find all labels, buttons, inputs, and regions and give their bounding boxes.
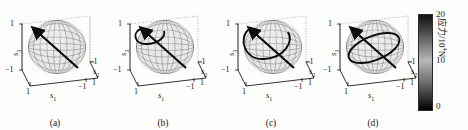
panel-c-plot: 1 −1 1 −1 1 −1 s1 s2 s3 [216, 2, 326, 106]
sphere-wireframe [136, 20, 194, 74]
axis-label-s3: s3 [328, 50, 340, 56]
axis-label-s1: s1 [266, 90, 272, 102]
tick-y-pos: 1 [308, 78, 312, 87]
tick-x-neg: −1 [78, 82, 87, 91]
axis-label-s3: s3 [118, 50, 130, 56]
tick-x-neg: −1 [186, 82, 195, 91]
tick-z-neg: −1 [5, 65, 14, 74]
tick-x-neg: −1 [396, 82, 405, 91]
poincare-sphere-figure: 1 −1 1 −1 1 −1 s1 s2 s3 (a) [0, 0, 468, 130]
colorbar [418, 14, 433, 111]
panel-a: 1 −1 1 −1 1 −1 s1 s2 s3 (a) [0, 0, 110, 130]
axis-label-s1: s1 [368, 90, 374, 102]
axis-label-s2: s2 [309, 66, 315, 78]
tick-y-neg: −1 [89, 57, 98, 66]
tick-x-neg: −1 [294, 82, 303, 91]
tick-x-pos: 1 [26, 87, 30, 96]
axis-label-s1: s1 [50, 90, 56, 102]
tick-y-pos: 1 [410, 78, 414, 87]
panel-caption-b: (b) [108, 118, 218, 128]
colorbar-title: 应力/104N [436, 18, 449, 57]
panel-b: 1 −1 1 −1 1 −1 s1 s2 s3 (b) [108, 0, 218, 130]
axis-label-s2: s2 [201, 66, 207, 78]
tick-z-pos: 1 [10, 19, 14, 28]
panel-c: 1 −1 1 −1 1 −1 s1 s2 s3 (c) [216, 0, 326, 130]
tick-x-pos: 1 [242, 87, 246, 96]
axis-label-s3: s3 [10, 50, 22, 56]
panel-b-plot: 1 −1 1 −1 1 −1 s1 s2 s3 [108, 2, 218, 106]
panel-a-plot: 1 −1 1 −1 1 −1 s1 s2 s3 [0, 2, 110, 106]
sphere-wireframe [28, 20, 86, 74]
tick-z-neg: −1 [221, 65, 230, 74]
panel-caption-a: (a) [0, 118, 110, 128]
colorbar-gradient [419, 15, 432, 110]
tick-x-pos: 1 [134, 87, 138, 96]
tick-x-pos: 1 [344, 87, 348, 96]
colorbar-tick-min: 0 [436, 101, 441, 111]
tick-y-pos: 1 [92, 78, 96, 87]
panel-d: 1 −1 1 −1 1 −1 s1 s2 s3 (d) [318, 0, 428, 130]
tick-z-pos: 1 [118, 19, 122, 28]
axis-label-s2: s2 [93, 66, 99, 78]
tick-y-neg: −1 [305, 57, 314, 66]
axis-label-s1: s1 [158, 90, 164, 102]
tick-y-pos: 1 [200, 78, 204, 87]
tick-y-neg: −1 [197, 57, 206, 66]
tick-z-pos: 1 [226, 19, 230, 28]
panel-caption-c: (c) [216, 118, 326, 128]
panel-d-plot: 1 −1 1 −1 1 −1 s1 s2 s3 [318, 2, 428, 106]
sphere-wireframe [244, 20, 302, 74]
tick-z-neg: −1 [113, 65, 122, 74]
axis-label-s3: s3 [226, 50, 238, 56]
tick-z-pos: 1 [328, 19, 332, 28]
panel-caption-d: (d) [318, 118, 428, 128]
tick-y-neg: −1 [407, 57, 416, 66]
tick-z-neg: −1 [323, 65, 332, 74]
axis-label-s2: s2 [411, 66, 417, 78]
